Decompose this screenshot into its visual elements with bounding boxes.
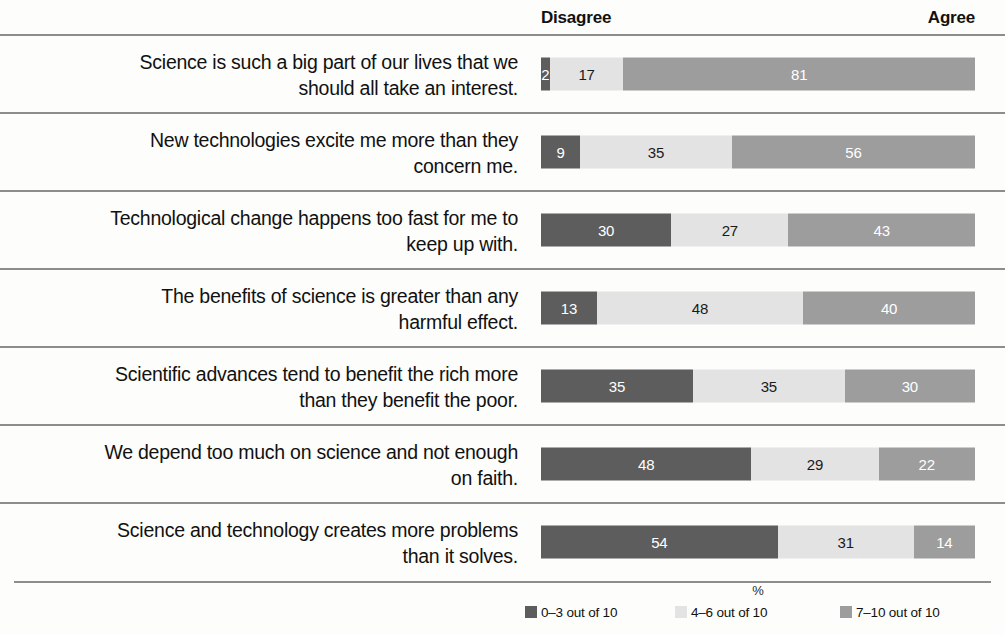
row-label-line: than it solves.	[403, 543, 518, 569]
row-label-line: should all take an interest.	[298, 75, 518, 101]
bar-segment-value: 48	[638, 456, 654, 473]
row-label-line: Science and technology creates more prob…	[117, 517, 518, 543]
legend-item-label: 0–3 out of 10	[541, 605, 617, 620]
row-label-line: harmful effect.	[399, 309, 518, 335]
bar-segment-mid: 35	[693, 370, 845, 403]
bar-segment-value: 35	[761, 378, 777, 395]
axis-label-disagree: Disagree	[541, 8, 611, 28]
chart-rows: Science is such a big part of our lives …	[0, 34, 1005, 580]
legend-item: 4–6 out of 10	[675, 605, 840, 620]
bar-segment-value: 43	[874, 222, 890, 239]
bar-segment-value: 9	[556, 144, 564, 161]
bar-segment-value: 35	[648, 144, 664, 161]
legend-swatch-mid-icon	[675, 606, 687, 618]
chart-row: Technological change happens too fast fo…	[0, 190, 1005, 268]
chart-header: Disagree Agree	[0, 8, 1005, 32]
bar-segment-value: 81	[791, 66, 807, 83]
bar-segment-value: 48	[692, 300, 708, 317]
row-label-line: New technologies excite me more than the…	[150, 127, 518, 153]
row-label-line: concern me.	[413, 153, 518, 179]
row-label: New technologies excite me more than the…	[14, 114, 524, 192]
bar-segment-value: 40	[881, 300, 897, 317]
bar-segment-mid: 17	[550, 58, 624, 91]
bar-segment-value: 27	[722, 222, 738, 239]
legend-swatch-high-icon	[840, 606, 852, 618]
chart-row: Science and technology creates more prob…	[0, 502, 1005, 580]
row-label: Science and technology creates more prob…	[14, 504, 524, 582]
bar-segment-low: 48	[541, 448, 751, 481]
row-label: The benefits of science is greater than …	[14, 270, 524, 348]
bar-segment-value: 56	[845, 144, 861, 161]
bar-segment-value: 35	[609, 378, 625, 395]
bar-segment-high: 30	[845, 370, 975, 403]
stacked-bar: 21781	[541, 58, 975, 91]
legend-item: 0–3 out of 10	[525, 605, 675, 620]
bar-segment-value: 17	[578, 66, 594, 83]
bar-segment-value: 54	[651, 534, 667, 551]
chart-row: Science is such a big part of our lives …	[0, 34, 1005, 112]
axis-unit-label: %	[541, 583, 975, 598]
bar-segment-mid: 27	[671, 214, 788, 247]
bar-segment-mid: 29	[751, 448, 878, 481]
row-label-line: We depend too much on science and not en…	[104, 439, 518, 465]
bar-segment-mid: 48	[597, 292, 803, 325]
bar-segment-low: 9	[541, 136, 580, 169]
row-label: Science is such a big part of our lives …	[14, 36, 524, 114]
bar-segment-value: 13	[561, 300, 577, 317]
bar-segment-low: 30	[541, 214, 671, 247]
row-label-line: Science is such a big part of our lives …	[140, 49, 518, 75]
bar-segment-high: 22	[879, 448, 975, 481]
row-label-line: keep up with.	[406, 231, 518, 257]
bar-segment-value: 30	[598, 222, 614, 239]
bar-segment-mid: 31	[778, 526, 914, 559]
stacked-bar: 93556	[541, 136, 975, 169]
stacked-bar: 543114	[541, 526, 975, 559]
bar-segment-value: 2	[541, 66, 549, 83]
bar-segment-value: 22	[919, 456, 935, 473]
legend-item-label: 7–10 out of 10	[856, 605, 940, 620]
row-label: We depend too much on science and not en…	[14, 426, 524, 504]
bar-segment-value: 31	[838, 534, 854, 551]
bar-segment-high: 81	[623, 58, 975, 91]
chart-row: We depend too much on science and not en…	[0, 424, 1005, 502]
row-label-line: Technological change happens too fast fo…	[110, 205, 518, 231]
legend-item: 7–10 out of 10	[840, 605, 990, 620]
stacked-bar-chart: Disagree Agree Science is such a big par…	[0, 0, 1005, 635]
chart-row: Scientific advances tend to benefit the …	[0, 346, 1005, 424]
bar-segment-low: 2	[541, 58, 550, 91]
bar-segment-high: 43	[788, 214, 975, 247]
row-label-line: The benefits of science is greater than …	[161, 283, 518, 309]
bar-segment-value: 14	[936, 534, 952, 551]
bar-segment-low: 13	[541, 292, 597, 325]
axis-label-agree: Agree	[928, 8, 975, 28]
bar-segment-high: 40	[803, 292, 975, 325]
stacked-bar: 353530	[541, 370, 975, 403]
legend-item-label: 4–6 out of 10	[691, 605, 767, 620]
stacked-bar: 134840	[541, 292, 975, 325]
row-label-line: Scientific advances tend to benefit the …	[115, 361, 518, 387]
chart-row: New technologies excite me more than the…	[0, 112, 1005, 190]
chart-row: The benefits of science is greater than …	[0, 268, 1005, 346]
bar-segment-high: 14	[914, 526, 975, 559]
bar-segment-high: 56	[732, 136, 975, 169]
row-label: Technological change happens too fast fo…	[14, 192, 524, 270]
legend-swatch-low-icon	[525, 606, 537, 618]
bar-segment-low: 54	[541, 526, 778, 559]
row-label-line: on faith.	[451, 465, 518, 491]
stacked-bar: 482922	[541, 448, 975, 481]
bar-segment-mid: 35	[580, 136, 732, 169]
row-label: Scientific advances tend to benefit the …	[14, 348, 524, 426]
bar-segment-value: 30	[902, 378, 918, 395]
bar-segment-value: 29	[807, 456, 823, 473]
bar-segment-low: 35	[541, 370, 693, 403]
stacked-bar: 302743	[541, 214, 975, 247]
chart-legend: 0–3 out of 104–6 out of 107–10 out of 10	[525, 602, 990, 622]
row-label-line: than they benefit the poor.	[299, 387, 518, 413]
